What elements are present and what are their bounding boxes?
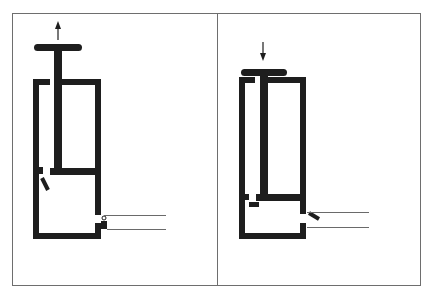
cylinder-right-wall: [300, 77, 306, 214]
pump-diagram: [0, 0, 430, 295]
cylinder-right-wall: [95, 79, 101, 215]
cylinder-bottom: [239, 233, 306, 239]
piston-handle: [34, 44, 82, 51]
outlet-valve-flap-closed: [101, 221, 107, 229]
outlet-valve-hinge: [102, 216, 106, 220]
figure-frame: [13, 14, 421, 286]
cylinder-left-wall: [239, 77, 245, 239]
cylinder-left-wall: [33, 79, 39, 239]
right-panel: [239, 42, 369, 239]
outlet-valve-flap-open: [309, 213, 319, 219]
inlet-valve-seat: [245, 194, 249, 200]
cylinder-bottom: [33, 233, 101, 239]
piston-head: [256, 194, 301, 201]
inlet-valve-flap-open: [42, 178, 48, 190]
down-arrow-icon: [260, 42, 266, 61]
piston-rod: [260, 76, 268, 195]
inlet-valve-flap-closed: [249, 202, 259, 207]
piston-rod: [54, 50, 62, 169]
inlet-valve-hinge: [245, 201, 248, 204]
outlet-valve-seat: [95, 223, 101, 233]
left-panel: [33, 21, 166, 239]
piston-handle: [241, 69, 287, 76]
piston-head: [50, 168, 98, 175]
up-arrow-icon: [55, 21, 61, 40]
inlet-valve-seat: [39, 167, 43, 174]
